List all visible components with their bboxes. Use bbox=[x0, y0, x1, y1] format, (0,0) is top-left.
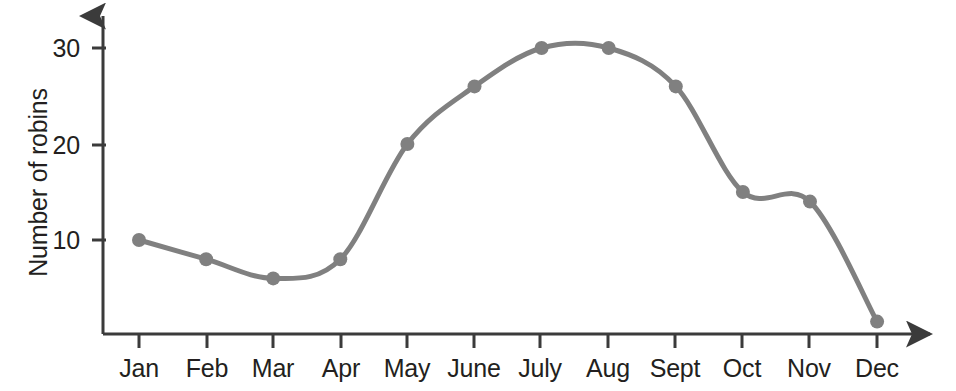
data-point-oct bbox=[736, 185, 750, 199]
data-point-aug bbox=[602, 41, 616, 55]
data-point-dec bbox=[870, 315, 884, 329]
data-point-markers bbox=[132, 41, 884, 329]
data-point-may bbox=[400, 137, 414, 151]
data-point-mar bbox=[266, 271, 280, 285]
data-point-nov bbox=[803, 195, 817, 209]
data-point-jan bbox=[132, 233, 146, 247]
x-axis-ticks bbox=[139, 334, 877, 348]
data-point-apr bbox=[333, 252, 347, 266]
line-chart: Number of robins 30 20 10 Jan Feb Mar Ap… bbox=[0, 0, 956, 391]
x-tick-label-dec: Dec bbox=[832, 354, 922, 383]
y-tick-label-10: 10 bbox=[28, 226, 80, 255]
y-tick-label-30: 30 bbox=[28, 34, 80, 63]
data-point-june bbox=[468, 79, 482, 93]
y-tick-label-20: 20 bbox=[28, 131, 80, 160]
chart-plot-area bbox=[0, 0, 956, 391]
data-point-july bbox=[535, 41, 549, 55]
data-point-feb bbox=[199, 252, 213, 266]
data-point-sept bbox=[669, 79, 683, 93]
data-series-line bbox=[139, 43, 877, 321]
